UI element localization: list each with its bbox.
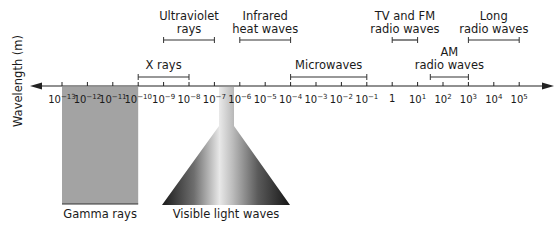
tick-label: 10−3	[304, 93, 327, 105]
tick-label: 105	[511, 93, 528, 105]
am-radio-label: AM radio waves	[415, 46, 484, 72]
tick-label: 102	[434, 93, 451, 105]
tick-label: 101	[409, 93, 426, 105]
microwaves-label: Microwaves	[295, 59, 362, 72]
tick-label: 10−10	[124, 93, 152, 105]
x-rays-label: X rays	[146, 59, 182, 72]
tick-label: 10−1	[355, 93, 378, 105]
ultraviolet-label: Ultraviolet rays	[159, 10, 219, 36]
tick-label: 10−4	[279, 93, 302, 105]
infrared-label: Infrared heat waves	[232, 10, 298, 36]
tick-label: 10−7	[203, 93, 226, 105]
y-axis-label: Wavelength (m)	[11, 35, 25, 127]
tv-fm-label: TV and FM radio waves	[370, 10, 439, 36]
tick-label: 10−8	[177, 93, 200, 105]
tick-label: 10−6	[228, 93, 251, 105]
tick-label: 10−12	[74, 93, 102, 105]
tick-label: 10−13	[48, 93, 76, 105]
em-spectrum-diagram: Wavelength (m) 10−1310−1210−1110−1010−91…	[0, 0, 560, 230]
tick-label: 1	[389, 93, 395, 104]
tick-label: 10−11	[99, 93, 127, 105]
tick-label: 104	[485, 93, 502, 105]
tick-label: 103	[460, 93, 477, 105]
visible-light-label: Visible light waves	[173, 208, 280, 221]
long-radio-label: Long radio waves	[459, 10, 528, 36]
tick-label: 10−5	[254, 93, 277, 105]
gamma-rays-label: Gamma rays	[63, 208, 137, 221]
tick-label: 10−9	[152, 93, 175, 105]
tick-label: 10−2	[330, 93, 353, 105]
